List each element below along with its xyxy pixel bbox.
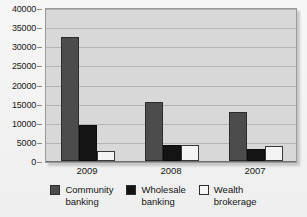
bar-group [145,8,199,161]
y-axis-tick-label: 30000 [12,43,36,52]
y-axis-tick-mark [37,162,42,163]
bar [265,146,283,161]
x-axis-tick-label: 2009 [76,165,97,176]
y-axis-tick-label: 40000 [12,5,36,14]
x-axis-tick-labels: 200920082007 [45,165,297,179]
y-axis-tick-mark [37,143,42,144]
y-axis-tick-label: 25000 [12,62,36,71]
x-axis-tick-label: 2007 [244,165,265,176]
plot-wrapper [45,8,297,163]
y-axis-tick-mark [37,105,42,106]
bar-group [61,8,115,161]
y-axis-tick-label: 20000 [12,81,36,90]
y-axis: 0500010000150002000025000300003500040000 [0,8,42,163]
y-axis-tick-label: 5000 [17,138,36,147]
bar [229,112,247,161]
bar-chart: 0500010000150002000025000300003500040000… [0,0,307,217]
y-axis-tick-mark [37,124,42,125]
legend-label: Community banking [65,184,113,207]
y-axis-tick-mark [37,86,42,87]
legend-item[interactable]: Wholesale banking [126,184,185,207]
bar [163,145,181,161]
y-axis-tick-label: 10000 [12,119,36,128]
y-axis-tick-mark [37,66,42,67]
y-axis-tick-label: 15000 [12,100,36,109]
bar [61,37,79,161]
bar [181,145,199,161]
y-axis-tick-label: 0 [31,158,36,167]
legend-label: Wholesale banking [141,184,185,207]
bar [97,151,115,161]
bar [79,125,97,161]
plot-area [45,8,297,163]
y-axis-tick-mark [37,9,42,10]
x-axis-line [46,161,296,162]
y-axis-tick-label: 35000 [12,24,36,33]
legend-swatch-icon [199,185,209,195]
x-axis-tick-label: 2008 [160,165,181,176]
legend-item[interactable]: Wealth brokerage [199,184,257,207]
bar [247,149,265,161]
chart-legend: Community bankingWholesale bankingWealth… [0,184,307,217]
bar [145,102,163,161]
legend-item[interactable]: Community banking [50,184,113,207]
y-axis-tick-mark [37,47,42,48]
bar-group [229,8,283,161]
legend-swatch-icon [126,185,136,195]
legend-label: Wealth brokerage [214,184,257,207]
legend-swatch-icon [50,185,60,195]
y-axis-tick-mark [37,28,42,29]
